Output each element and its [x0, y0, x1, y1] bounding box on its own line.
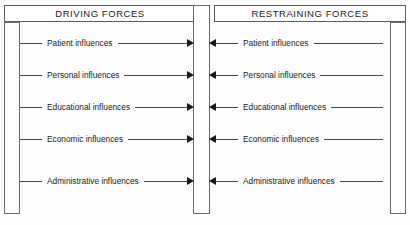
restraining-force-label: Personal influences — [238, 71, 320, 79]
arrow-head — [209, 177, 216, 185]
restraining-force-label: Patient influences — [238, 39, 314, 47]
arrow-stem — [320, 75, 383, 76]
arrow-stem — [216, 107, 238, 108]
force-field-diagram: DRIVING FORCES RESTRAINING FORCES Patien… — [0, 0, 410, 225]
arrow-head — [209, 71, 216, 79]
arrow-stem — [216, 43, 238, 44]
restraining-force-label: Administrative influences — [238, 177, 340, 185]
arrow-stem — [216, 75, 238, 76]
restraining-force-row: Educational influences — [0, 94, 410, 120]
restraining-force-row: Patient influences — [0, 30, 410, 56]
arrow-head — [209, 39, 216, 47]
restraining-forces-header: RESTRAINING FORCES — [214, 5, 406, 22]
restraining-forces-title: RESTRAINING FORCES — [251, 8, 368, 18]
arrow-head — [209, 103, 216, 111]
arrow-left-icon: Educational influences — [209, 102, 383, 112]
arrow-stem — [216, 139, 238, 140]
restraining-force-row: Economic influences — [0, 126, 410, 152]
driving-forces-title: DRIVING FORCES — [55, 8, 145, 18]
restraining-force-label: Economic influences — [238, 135, 324, 143]
arrow-head — [209, 135, 216, 143]
arrow-left-icon: Patient influences — [209, 38, 383, 48]
arrow-stem — [324, 139, 383, 140]
arrow-left-icon: Administrative influences — [209, 176, 383, 186]
driving-forces-header: DRIVING FORCES — [4, 5, 196, 22]
restraining-force-row: Administrative influences — [0, 168, 410, 194]
arrow-stem — [314, 43, 384, 44]
restraining-force-label: Educational influences — [238, 103, 331, 111]
arrow-stem — [340, 181, 383, 182]
arrow-stem — [216, 181, 238, 182]
arrow-stem — [331, 107, 383, 108]
arrow-left-icon: Economic influences — [209, 134, 383, 144]
arrow-left-icon: Personal influences — [209, 70, 383, 80]
restraining-force-row: Personal influences — [0, 62, 410, 88]
